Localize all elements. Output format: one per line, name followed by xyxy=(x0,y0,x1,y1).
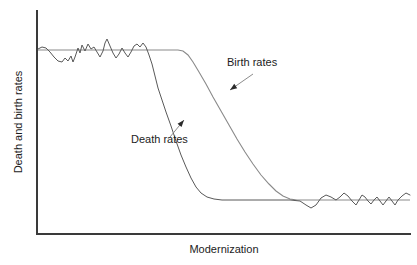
demographic-transition-figure: Birth rates Death rates Modernization De… xyxy=(0,0,417,265)
y-axis-title: Death and birth rates xyxy=(12,70,24,173)
death-rates-label: Death rates xyxy=(131,133,188,145)
chart-background xyxy=(0,0,417,265)
chart-canvas: Birth rates Death rates Modernization De… xyxy=(0,0,417,265)
birth-rates-label: Birth rates xyxy=(227,56,278,68)
x-axis-title: Modernization xyxy=(189,243,258,255)
